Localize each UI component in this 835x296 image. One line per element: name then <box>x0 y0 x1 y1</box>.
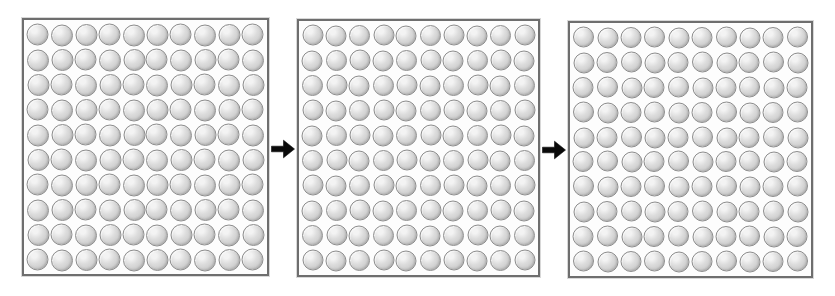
grid-cell <box>145 247 169 272</box>
grid-cell <box>122 72 146 97</box>
sphere-token <box>194 24 216 46</box>
grid-cell <box>301 223 325 248</box>
sphere-token <box>514 100 535 121</box>
grid-cell <box>395 248 419 273</box>
grid-cell <box>667 199 691 224</box>
grid-cell <box>596 149 620 174</box>
sphere-token <box>218 123 240 145</box>
sphere-token <box>350 50 371 71</box>
sphere-token <box>574 202 595 223</box>
sphere-token <box>574 52 595 73</box>
sphere-token <box>195 49 217 71</box>
grid-cell <box>442 73 466 98</box>
sphere-token <box>397 225 418 246</box>
sphere-token <box>574 127 595 148</box>
sphere-token <box>787 202 808 223</box>
grid-cell <box>98 72 122 97</box>
sphere-token <box>75 24 97 46</box>
sphere-token <box>51 174 73 196</box>
sphere-token <box>325 176 346 197</box>
sphere-token <box>146 198 168 220</box>
sphere-token <box>170 248 192 270</box>
sphere-token <box>490 250 511 271</box>
sphere-token <box>170 173 192 195</box>
grid-cell <box>596 125 620 150</box>
grid-cell <box>169 97 193 122</box>
sphere-token <box>466 176 487 197</box>
grid-cell <box>145 147 169 172</box>
grid-cell <box>217 197 241 222</box>
sphere-token <box>170 49 192 71</box>
grid-cell <box>74 222 98 247</box>
grid-cell <box>122 147 146 172</box>
sphere-token <box>396 50 417 71</box>
sphere-token <box>420 175 441 196</box>
sphere-token <box>763 77 784 98</box>
grid-cell <box>122 47 146 72</box>
sphere-token <box>373 225 394 246</box>
sphere-token <box>762 102 783 123</box>
grid-cell <box>442 223 466 248</box>
sphere-token <box>514 250 535 271</box>
grid-cell <box>169 72 193 97</box>
grid-cell <box>372 98 396 123</box>
sphere-token <box>786 151 807 172</box>
sphere-token <box>620 102 641 123</box>
sphere-token <box>326 50 347 71</box>
sphere-token <box>242 23 264 45</box>
sphere-token <box>123 249 145 271</box>
sphere-token <box>349 76 370 97</box>
sphere-token <box>762 27 783 48</box>
grid-cell <box>325 123 349 148</box>
grid-cell <box>785 149 809 174</box>
sphere-token <box>195 199 217 221</box>
grid-cell <box>596 224 620 249</box>
sphere-grid-1 <box>24 20 267 274</box>
grid-cell <box>643 224 667 249</box>
sphere-token <box>716 101 737 122</box>
sphere-token <box>242 173 264 195</box>
grid-cell <box>572 125 596 150</box>
sphere-token <box>420 125 441 146</box>
grid-cell <box>395 23 419 48</box>
grid-cell <box>169 22 193 47</box>
grid-cell <box>762 75 786 100</box>
sphere-token <box>621 126 642 147</box>
grid-cell <box>419 98 443 123</box>
grid-cell <box>325 198 349 223</box>
sphere-token <box>26 248 48 270</box>
grid-cell <box>372 123 396 148</box>
sphere-token <box>122 223 144 245</box>
grid-cell <box>572 149 596 174</box>
sphere-token <box>51 124 73 146</box>
grid-cell <box>667 249 691 274</box>
grid-cell <box>738 50 762 75</box>
sphere-token <box>444 175 465 196</box>
sphere-token <box>597 226 618 247</box>
grid-cell <box>691 249 715 274</box>
sphere-token <box>397 150 418 171</box>
grid-cell <box>122 122 146 147</box>
sphere-token <box>123 49 145 71</box>
sphere-token <box>396 176 417 197</box>
sphere-token <box>349 175 370 196</box>
grid-cell <box>193 222 217 247</box>
grid-cell <box>489 123 513 148</box>
sphere-token <box>490 76 511 97</box>
grid-cell <box>596 50 620 75</box>
grid-cell <box>466 23 490 48</box>
grid-cell <box>241 247 265 272</box>
sphere-token <box>668 76 689 97</box>
sphere-token <box>27 124 49 146</box>
sphere-token <box>597 76 618 97</box>
sphere-token <box>75 224 97 246</box>
sphere-token <box>467 200 488 221</box>
grid-cell <box>122 172 146 197</box>
sphere-token <box>75 249 97 271</box>
grid-cell <box>348 148 372 173</box>
grid-cell <box>596 75 620 100</box>
sphere-token <box>326 125 347 146</box>
grid-cell <box>785 75 809 100</box>
sphere-token <box>620 251 641 272</box>
sphere-token <box>99 199 121 221</box>
